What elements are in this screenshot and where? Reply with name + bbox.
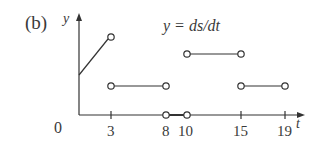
segment-0-3	[79, 39, 108, 75]
open-point-icon	[282, 83, 288, 89]
open-point-icon	[184, 51, 190, 57]
open-point-icon	[163, 83, 169, 89]
open-point-icon	[163, 112, 169, 118]
x-axis-arrow-icon	[297, 112, 305, 118]
open-point-icon	[238, 83, 244, 89]
y-axis-arrow-icon	[76, 13, 82, 21]
open-point-icon	[108, 34, 114, 40]
plot-area	[0, 0, 318, 144]
open-point-icon	[238, 51, 244, 57]
open-point-icon	[184, 112, 190, 118]
open-point-icon	[108, 83, 114, 89]
